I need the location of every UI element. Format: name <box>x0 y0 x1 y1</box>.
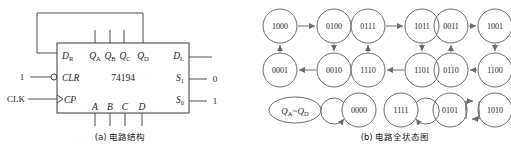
self-loop-arrow <box>321 98 344 124</box>
pin-label-s1-group: S1 0 <box>176 73 218 84</box>
pin-label-a: A <box>91 102 98 112</box>
state-label: 1011 <box>414 22 430 31</box>
pin-label-dr: DR <box>61 51 74 62</box>
state-label: 0100 <box>326 22 342 31</box>
s0-value: 1 <box>213 96 218 106</box>
clk-input-label: CLK <box>7 94 26 104</box>
pin-label-s1: S1 <box>176 73 184 84</box>
clock-triangle-icon <box>57 95 63 103</box>
pin-label-d: D <box>138 102 146 112</box>
pin-label-cp: CP <box>64 95 76 105</box>
clk-input-group: CLK <box>7 94 63 104</box>
output-stubs-top <box>95 13 143 43</box>
caption-panel-a: (a) 电路结构 <box>95 132 146 142</box>
figure-container: 74194 DR CLR CP 1 CLK QA QB <box>0 0 511 152</box>
input-labels-bottom: A B C D <box>91 102 145 126</box>
pin-label-clr: CLR <box>62 73 80 83</box>
state-cycle-1: 1000 0100 0010 0001 <box>263 9 351 87</box>
output-labels-top: QA QB QC QD <box>89 51 149 62</box>
state-label: 1111 <box>393 106 408 115</box>
chip-label: 74194 <box>111 73 135 83</box>
clr-input-value: 1 <box>20 72 25 82</box>
state-label: 1100 <box>487 66 503 75</box>
circuit-schematic-svg: 74194 DR CLR CP 1 CLK QA QB <box>0 0 256 152</box>
pin-label-b: B <box>107 102 113 112</box>
pin-label-qc: QC <box>119 51 130 62</box>
svg-text:DR: DR <box>61 51 74 62</box>
state-label: 0010 <box>326 66 342 75</box>
state-label: 0101 <box>442 106 458 115</box>
state-label: 0110 <box>443 66 459 75</box>
state-label: 1001 <box>487 22 503 31</box>
pin-label-qb: QB <box>104 51 116 62</box>
legend-qa-qd: QA~QD <box>269 97 321 123</box>
pin-label-s0: S0 <box>176 95 184 106</box>
pin-label-qd: QD <box>137 51 149 62</box>
state-label: 0111 <box>360 22 375 31</box>
pin-label-s0-group: S0 1 <box>176 95 217 106</box>
panel-circuit-structure: 74194 DR CLR CP 1 CLK QA QB <box>0 0 256 152</box>
state-cycle-2: 0111 1011 1101 1110 <box>351 9 439 87</box>
self-loop-state-1111: 1111 <box>384 93 439 127</box>
two-cycle-0101-1010: 0101 1010 <box>433 93 511 127</box>
pin-label-dl-group: DL <box>172 51 212 62</box>
state-diagram-svg: 1000 0100 0010 0001 0111 1011 1101 <box>255 0 511 152</box>
inversion-bubble-icon <box>51 74 57 80</box>
state-label: 1010 <box>487 106 503 115</box>
s1-value: 0 <box>213 74 218 84</box>
state-label: 1000 <box>272 22 288 31</box>
panel-state-diagram: 1000 0100 0010 0001 0111 1011 1101 <box>255 0 511 152</box>
state-label: 0001 <box>272 66 288 75</box>
state-label: 1101 <box>414 66 430 75</box>
state-label: 0011 <box>443 22 459 31</box>
state-cycle-3: 0011 1001 1100 0110 <box>434 9 511 87</box>
self-loop-state-0000: 0000 <box>321 93 376 127</box>
pin-label-dl: DL <box>172 51 184 62</box>
feedback-wire <box>37 13 143 53</box>
state-label: 1110 <box>360 66 375 75</box>
pin-label-qa: QA <box>89 51 101 62</box>
state-label: 0000 <box>351 106 367 115</box>
clr-input-group: 1 <box>20 72 57 82</box>
caption-panel-b: (b) 电路全状态图 <box>361 132 430 142</box>
legend-label: QA~QD <box>281 106 309 117</box>
pin-label-c: C <box>122 102 129 112</box>
